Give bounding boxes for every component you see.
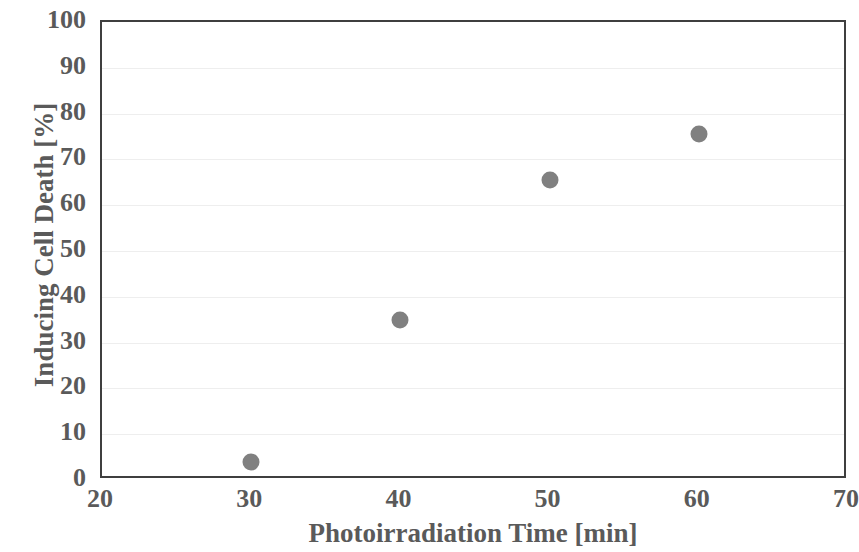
x-tick-label: 30 [209, 486, 289, 512]
gridline [102, 434, 844, 435]
y-tick-label: 50 [16, 236, 86, 262]
y-tick-label: 10 [16, 419, 86, 445]
y-tick-label: 100 [16, 7, 86, 33]
gridline [102, 68, 844, 69]
x-tick-label: 40 [358, 486, 438, 512]
data-point [541, 172, 558, 189]
gridline [102, 159, 844, 160]
y-tick-label: 60 [16, 190, 86, 216]
y-tick-label: 40 [16, 282, 86, 308]
data-point [392, 311, 409, 328]
gridline [102, 343, 844, 344]
y-tick-label: 20 [16, 373, 86, 399]
gridline [102, 388, 844, 389]
data-point [690, 126, 707, 143]
x-tick-label: 60 [657, 486, 737, 512]
gridline [102, 297, 844, 298]
y-tick-label: 80 [16, 99, 86, 125]
y-axis-tick-labels: 0102030405060708090100 [0, 20, 86, 478]
scatter-chart-figure: Inducing Cell Death [%] 0102030405060708… [0, 0, 859, 552]
x-tick-label: 70 [806, 486, 859, 512]
gridline [102, 251, 844, 252]
data-point [243, 453, 260, 470]
plot-area [100, 20, 846, 478]
y-tick-label: 90 [16, 53, 86, 79]
x-axis-tick-labels: 203040506070 [100, 486, 846, 516]
x-axis-title: Photoirradiation Time [min] [100, 518, 846, 549]
gridline [102, 205, 844, 206]
gridline [102, 114, 844, 115]
x-tick-label: 50 [508, 486, 588, 512]
y-tick-label: 30 [16, 328, 86, 354]
x-tick-label: 20 [60, 486, 140, 512]
y-tick-label: 70 [16, 144, 86, 170]
